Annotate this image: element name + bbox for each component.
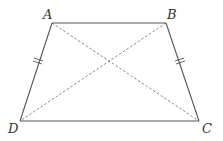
vertex-label-d: D — [7, 121, 19, 136]
vertex-label-b: B — [166, 7, 177, 22]
diagonal-ac — [52, 23, 199, 121]
trapezoid-diagram: A B C D — [0, 0, 223, 141]
tick-marks-bc — [175, 58, 185, 64]
tick-marks-da — [33, 58, 43, 64]
diagonal-bd — [20, 23, 166, 121]
vertex-label-a: A — [42, 7, 52, 22]
edge-da — [20, 23, 52, 121]
vertex-label-c: C — [202, 121, 212, 136]
edge-bc — [166, 23, 199, 121]
